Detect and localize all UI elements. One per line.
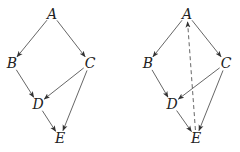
edge-left-C-E (63, 70, 87, 130)
node-left-C: C (85, 55, 96, 71)
edge-left-D-E (42, 111, 55, 132)
edge-left-A-B (17, 20, 47, 57)
node-left-B: B (6, 55, 17, 71)
edge-left-A-C (57, 20, 85, 56)
node-left-A: A (45, 6, 57, 22)
node-right-B: B (142, 55, 153, 71)
edge-right-B-D (152, 70, 168, 97)
edge-right-C-E (199, 70, 223, 130)
edges-layer (16, 20, 223, 131)
node-left-D: D (31, 96, 43, 112)
node-right-A: A (180, 6, 192, 22)
edge-right-A-B (153, 20, 182, 56)
edge-right-E-A (188, 22, 196, 130)
node-right-E: E (190, 130, 201, 146)
node-right-D: D (165, 96, 177, 112)
node-left-E: E (54, 130, 65, 146)
edge-right-A-C (192, 20, 221, 56)
edge-right-D-E (177, 111, 192, 132)
diagram-canvas: ABCDEABCDE (0, 0, 240, 152)
edge-left-B-D (16, 70, 33, 97)
node-right-C: C (221, 55, 232, 71)
